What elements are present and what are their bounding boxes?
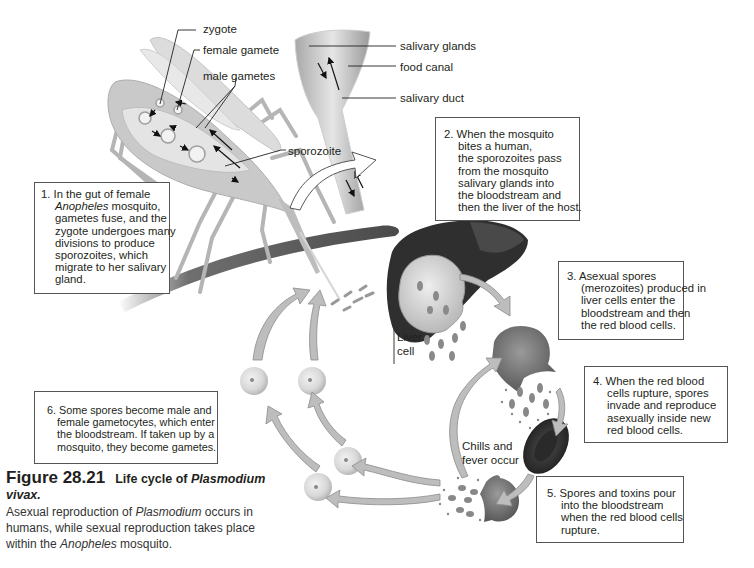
label-chills-line2: fever occur: [462, 454, 519, 466]
step-4-line: 4. When the red blood: [593, 375, 723, 387]
figure-title-italic: Plasmodium: [191, 472, 265, 486]
step-1-italic: Anopheles: [55, 200, 108, 212]
figure-title-line2: vivax.: [6, 488, 336, 502]
step-2-line: salivary glands into: [444, 177, 575, 189]
step-6-box: 6. Some spores become male and female ga…: [34, 391, 218, 464]
step-3-line: bloodstream and then: [567, 307, 679, 319]
step-3-line: liver cells enter the: [567, 294, 679, 306]
label-female-gamete: female gamete: [203, 44, 279, 57]
step-1-line: zygote undergoes many: [41, 225, 165, 237]
caption-text: Asexual reproduction of: [6, 505, 135, 519]
label-food-canal: food canal: [400, 61, 453, 74]
step-2-line: bites a human,: [444, 140, 575, 152]
figure-caption: Figure 28.21Life cycle of Plasmodium viv…: [6, 468, 336, 552]
caption-body: Asexual reproduction of Plasmodium occur…: [6, 504, 336, 552]
label-chills-fever: Chills and fever occur: [462, 439, 519, 467]
label-salivary-duct: salivary duct: [400, 92, 464, 105]
step-6-line: mosquito, they become gametes.: [47, 441, 213, 453]
step-3-line: (merozoites) produced in: [567, 282, 679, 294]
step-4-line: asexually inside new: [593, 412, 723, 424]
step-1-line: divisions to produce: [41, 237, 165, 249]
step-1-line-rest: mosquito,: [108, 200, 160, 212]
step-2-line: the sporozoites pass: [444, 152, 575, 164]
step-5-line: into the bloodstream: [547, 499, 679, 511]
step-4-box: 4. When the red blood cells rupture, spo…: [584, 366, 728, 443]
step-2-line: then the liver of the host.: [444, 201, 575, 213]
step-3-line: the red blood cells.: [567, 319, 679, 331]
label-sporozoite: sporozoite: [288, 145, 341, 158]
step-2-line: from the mosquito: [444, 165, 575, 177]
caption-italic: Anopheles: [60, 537, 117, 551]
label-zygote: zygote: [203, 23, 237, 36]
figure-title-prefix: Life cycle of: [115, 472, 191, 486]
step-5-line: 5. Spores and toxins pour: [547, 487, 679, 499]
caption-italic: Plasmodium: [135, 505, 201, 519]
step-2-line: the bloodstream and: [444, 189, 575, 201]
step-1-line: 1. In the gut of female: [41, 188, 165, 200]
caption-text: mosquito.: [117, 537, 172, 551]
step-1-line: gland.: [41, 273, 165, 285]
step-1-line: Anopheles mosquito,: [41, 200, 165, 212]
label-liver-cell: Liver cell: [397, 330, 422, 358]
step-1-box: 1. In the gut of female Anopheles mosqui…: [34, 182, 170, 294]
spores-cluster-2: [439, 477, 481, 521]
figure-title: Life cycle of Plasmodium: [115, 472, 265, 486]
liver-cell: [399, 255, 465, 333]
label-chills-line1: Chills and: [462, 440, 513, 452]
step-2-line: 2. When the mosquito: [444, 128, 575, 140]
step-6-line: female gametocytes, which enter: [47, 416, 213, 428]
step-4-line: cells rupture, spores: [593, 387, 723, 399]
label-male-gametes: male gametes: [203, 70, 275, 83]
step-4-line: invade and reproduce: [593, 399, 723, 411]
caption-text: within the: [6, 537, 60, 551]
step-3-line: 3. Asexual spores: [567, 270, 679, 282]
caption-text: humans, while sexual reproduction takes …: [6, 521, 255, 535]
step-5-line: rupture.: [547, 524, 679, 536]
step-4-line: red blood cells.: [593, 424, 723, 436]
step-1-line: sporozoites, which: [41, 249, 165, 261]
label-salivary-glands: salivary glands: [400, 40, 476, 53]
label-liver-cell-line2: cell: [397, 345, 414, 357]
step-6-line: the bloodstream. If taken up by a: [47, 428, 213, 440]
step-2-box: 2. When the mosquito bites a human, the …: [435, 117, 580, 221]
caption-title: Figure 28.21Life cycle of Plasmodium: [6, 468, 336, 488]
caption-text: occurs in: [201, 505, 252, 519]
step-1-line: migrate to her salivary: [41, 261, 165, 273]
step-6-line: 6. Some spores become male and: [47, 404, 213, 416]
step-5-box: 5. Spores and toxins pour into the blood…: [536, 476, 684, 543]
step-3-box: 3. Asexual spores (merozoites) produced …: [558, 261, 684, 340]
label-liver-cell-line1: Liver: [397, 331, 422, 343]
step-5-line: when the red blood cells: [547, 511, 679, 523]
figure-number: Figure 28.21: [6, 468, 105, 487]
step-1-line: gametes fuse, and the: [41, 212, 165, 224]
